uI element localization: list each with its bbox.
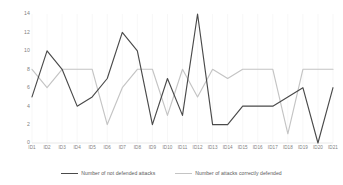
x-tick-label: ID17: [268, 145, 278, 150]
x-tick-label: ID18: [283, 145, 293, 150]
y-tick-label: 12: [4, 30, 30, 35]
x-tick-label: ID4: [73, 145, 80, 150]
x-axis: ID1ID2ID3ID4ID5ID6ID7ID8ID9ID10ID11ID12I…: [32, 145, 333, 155]
legend-line-swatch: [61, 173, 78, 174]
y-tick-label: 14: [4, 11, 30, 16]
line-chart: 02468101214 ID1ID2ID3ID4ID5ID6ID7ID8ID9I…: [0, 0, 343, 185]
x-tick-label: ID10: [162, 145, 172, 150]
x-tick-label: ID7: [119, 145, 126, 150]
x-tick-label: ID14: [223, 145, 233, 150]
legend-entry[interactable]: Number of attacks correctly defended: [175, 170, 281, 176]
legend-label: Number of attacks correctly defended: [195, 170, 281, 176]
x-tick-label: ID15: [238, 145, 248, 150]
legend-line-swatch: [175, 173, 192, 174]
x-tick-label: ID19: [298, 145, 308, 150]
plot-svg: [32, 14, 333, 143]
x-tick-label: ID2: [43, 145, 50, 150]
y-tick-label: 6: [4, 85, 30, 90]
x-tick-label: ID16: [253, 145, 263, 150]
x-tick-label: ID11: [178, 145, 188, 150]
y-tick-label: 8: [4, 67, 30, 72]
x-tick-label: ID1: [28, 145, 35, 150]
y-tick-label: 4: [4, 104, 30, 109]
y-tick-label: 2: [4, 122, 30, 127]
x-tick-label: ID8: [134, 145, 141, 150]
x-tick-label: ID6: [104, 145, 111, 150]
x-tick-label: ID20: [313, 145, 323, 150]
x-tick-label: ID5: [89, 145, 96, 150]
chart-legend: Number of not defended attacksNumber of …: [0, 166, 343, 180]
y-tick-label: 0: [4, 140, 30, 145]
legend-label: Number of not defended attacks: [81, 170, 155, 176]
plot-area: [32, 14, 333, 143]
x-tick-label: ID9: [149, 145, 156, 150]
x-tick-label: ID21: [328, 145, 338, 150]
x-tick-label: ID3: [58, 145, 65, 150]
legend-entry[interactable]: Number of not defended attacks: [61, 170, 155, 176]
x-tick-label: ID12: [193, 145, 203, 150]
y-axis: 02468101214: [0, 0, 30, 185]
y-tick-label: 10: [4, 48, 30, 53]
x-tick-label: ID13: [208, 145, 218, 150]
